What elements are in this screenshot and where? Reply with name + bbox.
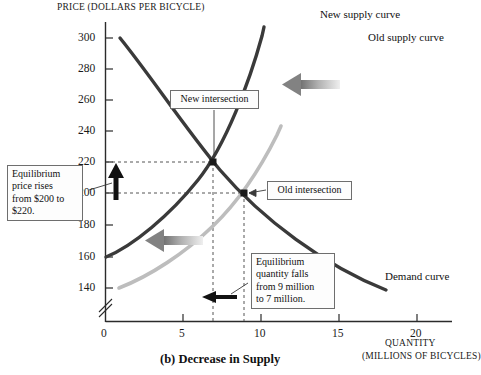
- x-tick-5: 5: [179, 327, 185, 339]
- x-tick-marks: [183, 314, 417, 322]
- price-callout-line3: from $200 to: [12, 193, 78, 205]
- quantity-callout-line1: Equilibrium: [256, 256, 330, 268]
- quantity-callout-line2: quantity falls: [256, 268, 330, 280]
- supply-shift-arrow-upper: [282, 73, 340, 96]
- price-callout-line4: $220.: [12, 205, 78, 217]
- price-rise-arrow: [108, 163, 124, 200]
- x-tick-15: 15: [332, 327, 344, 339]
- old-supply-curve-label: Old supply curve: [368, 31, 444, 43]
- price-callout-line1: Equilibrium: [12, 168, 78, 180]
- new-supply-curve: [106, 27, 264, 257]
- x-tick-20: 20: [410, 327, 422, 339]
- supply-shift-arrow-lower: [145, 229, 203, 252]
- x-axis-title: QUANTITY: [385, 338, 436, 348]
- new-supply-curve-label: New supply curve: [320, 8, 400, 20]
- old-intersection-marker: [241, 190, 248, 197]
- x-tick-0: 0: [101, 327, 107, 339]
- price-callout-line2: price rises: [12, 180, 78, 192]
- figure-caption: (b) Decrease in Supply: [160, 352, 280, 367]
- y-tick-marks: [106, 38, 114, 288]
- quantity-callout-line4: to 7 million.: [256, 293, 330, 305]
- y-tick-140: 140: [78, 281, 95, 293]
- x-tick-10: 10: [254, 327, 266, 339]
- new-intersection-callout: New intersection: [170, 90, 259, 109]
- quantity-fall-arrow: [202, 291, 237, 303]
- y-axis-title: PRICE (DOLLARS PER BICYCLE): [57, 2, 205, 12]
- y-tick-300: 300: [78, 31, 95, 43]
- y-tick-160: 160: [78, 250, 95, 262]
- price-rise-callout: Equilibrium price rises from $200 to $22…: [7, 165, 83, 221]
- x-axis-subtitle: (MILLIONS OF BICYCLES): [362, 351, 481, 361]
- y-tick-240: 240: [78, 124, 95, 136]
- demand-curve-label: Demand curve: [385, 270, 449, 282]
- quantity-fall-callout: Equilibrium quantity falls from 9 millio…: [251, 253, 335, 309]
- quantity-callout-line3: from 9 million: [256, 281, 330, 293]
- old-intersection-callout: Old intersection: [267, 181, 352, 200]
- new-intersection-marker: [210, 159, 217, 166]
- y-tick-280: 280: [78, 62, 95, 74]
- y-tick-260: 260: [78, 93, 95, 105]
